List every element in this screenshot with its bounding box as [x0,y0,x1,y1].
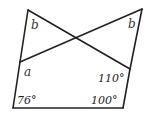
label-b-left: b [31,18,39,32]
diagonal-left-junction-to-top-right [20,9,142,62]
label-angle-100: 100° [91,94,118,107]
label-a: a [24,65,31,79]
diagonal-top-left-to-right-junction [28,10,130,69]
left-side-upper [20,10,28,62]
geometry-diagram: b b a 110° 76° 100° [0,0,147,113]
label-angle-110: 110° [98,72,125,85]
label-b-right: b [128,17,136,31]
label-angle-76: 76° [17,94,37,107]
